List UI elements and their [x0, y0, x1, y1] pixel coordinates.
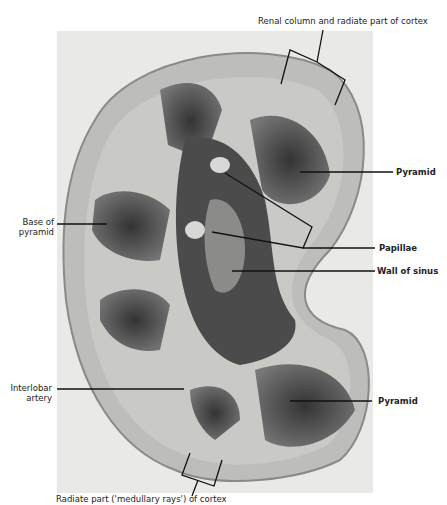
label-radiate-part: Radiate part ('medullary rays') of corte… [56, 494, 227, 504]
label-base-of-pyramid-line2: pyramid [14, 227, 54, 237]
label-pyramid-bottom: Pyramid [378, 396, 418, 406]
label-papillae: Papillae [379, 243, 417, 253]
label-base-of-pyramid: Base of pyramid [14, 217, 54, 237]
label-interlobar-artery: Interlobar artery [4, 383, 52, 403]
label-base-of-pyramid-line1: Base of [14, 217, 54, 227]
label-renal-column: Renal column and radiate part of cortex [258, 16, 428, 26]
label-interlobar-line1: Interlobar [4, 383, 52, 393]
label-interlobar-line2: artery [4, 393, 52, 403]
label-wall-of-sinus: Wall of sinus [377, 266, 438, 276]
label-pyramid-top: Pyramid [396, 167, 436, 177]
